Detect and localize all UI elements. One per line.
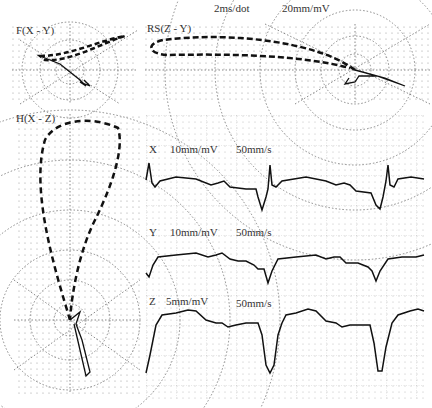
right-sagittal-loop-label: RS(Z - Y) xyxy=(147,22,191,34)
lead-z-speed: 50mm/s xyxy=(236,297,271,309)
frontal-loop-panel: F(X - Y) xyxy=(0,20,140,105)
lead-z-gain: 5mm/mV xyxy=(166,295,208,307)
amplitude-scale-label: 20mm/mV xyxy=(282,2,330,14)
lead-y-gain: 10mm/mV xyxy=(170,226,218,238)
horizontal-loop-label: H(X - Z) xyxy=(16,112,55,124)
right-sagittal-loop-panel: RS(Z - Y) xyxy=(145,20,432,105)
lead-y-speed: 50mm/s xyxy=(236,226,271,238)
lead-x-gain: 10mm/mV xyxy=(170,143,218,155)
lead-y-name: Y xyxy=(149,226,157,238)
horizontal-loop-panel: H(X - Z) xyxy=(0,110,140,400)
ecg-strips-panel: X 10mm/mV 50mm/s Y 10mm/mV 50mm/s Z 5mm/… xyxy=(146,115,428,403)
frontal-loop-label: F(X - Y) xyxy=(16,24,54,36)
lead-z-name: Z xyxy=(149,295,156,307)
horizontal-loop-plot xyxy=(0,110,140,400)
lead-x-speed: 50mm/s xyxy=(236,143,271,155)
ecg-grid xyxy=(146,115,428,403)
lead-x-name: X xyxy=(149,143,157,155)
